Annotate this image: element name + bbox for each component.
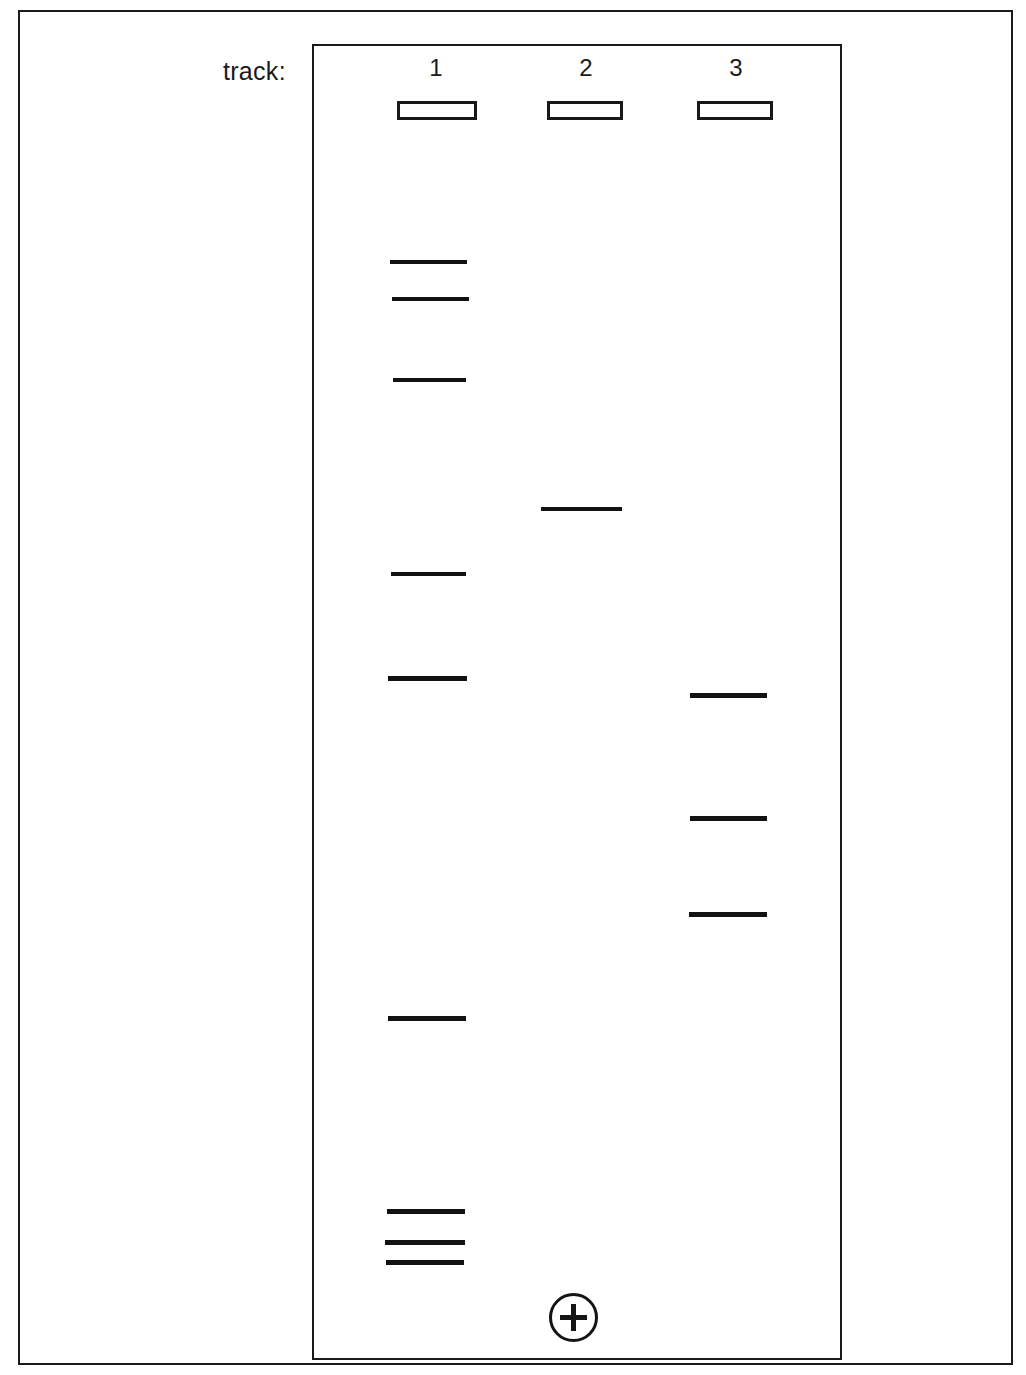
band-track1-9 (386, 1260, 464, 1265)
band-track3-2 (690, 816, 767, 821)
band-track1-1 (390, 260, 467, 264)
band-track1-2 (392, 297, 469, 301)
band-track3-1 (690, 693, 767, 698)
track-header-3: 3 (706, 54, 766, 82)
track-header-1: 1 (406, 54, 466, 82)
band-track1-5 (388, 676, 467, 681)
band-track1-8 (385, 1240, 465, 1245)
gel-plate (312, 44, 842, 1360)
loading-well-track-2 (547, 101, 623, 120)
band-track1-7 (387, 1209, 465, 1214)
plus-vertical-stroke (571, 1304, 576, 1331)
loading-well-track-1 (397, 101, 477, 120)
loading-well-track-3 (697, 101, 773, 120)
track-axis-label: track: (223, 57, 286, 85)
band-track3-3 (689, 912, 767, 917)
anode-plus-icon (549, 1293, 598, 1342)
figure-canvas: track: 1 2 3 (0, 0, 1026, 1375)
track-header-2: 2 (556, 54, 616, 82)
band-track2-1 (541, 507, 622, 511)
page-border: track: 1 2 3 (18, 10, 1013, 1365)
band-track1-6 (388, 1016, 466, 1021)
band-track1-3 (393, 378, 466, 382)
band-track1-4 (391, 572, 466, 576)
